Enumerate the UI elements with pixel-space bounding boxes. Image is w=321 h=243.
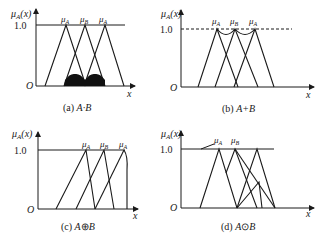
y-tick-1: 1.0	[160, 24, 173, 35]
panel-d: μA(x) 1.0 O x μA μB (d) A⊙B	[160, 128, 314, 233]
origin-label: O	[170, 202, 177, 213]
peak-label-a1: μA	[81, 139, 91, 150]
caption-c: (c) A⊕B	[61, 221, 95, 233]
peak-label-b: μB	[99, 139, 109, 150]
peak-label-a1: μA	[60, 14, 70, 25]
sum-arc-1	[217, 29, 235, 35]
bounded-edge	[124, 150, 127, 209]
fuzzy-operations-figure: μA(x) 1.0 O x μA μB μA (a) A·B μA(x) 1.0…	[0, 0, 321, 243]
panel-c: μA(x) 1.0 O x μA μB μA (c) A⊕B	[11, 128, 138, 233]
peak-label-b: μB	[79, 14, 89, 25]
peak-label-b: μB	[230, 135, 240, 146]
peak-label-a2: μA	[118, 139, 128, 150]
peak-label-a2: μA	[248, 16, 258, 27]
caption-d: (d) A⊙B	[221, 221, 255, 233]
peak-label-b: μB	[229, 16, 239, 27]
x-axis-label: x	[305, 89, 311, 100]
origin-label: O	[27, 204, 34, 215]
peak-label-a2: μA	[98, 14, 108, 25]
y-axis-label: μA(x)	[160, 8, 182, 21]
caption-a: (a) A·B	[63, 102, 91, 114]
x-axis-label: x	[305, 208, 311, 219]
sum-arc-2	[235, 29, 255, 35]
peak-label-a1: μA	[211, 16, 221, 27]
membership-a1	[56, 150, 95, 209]
membership-b-right	[235, 149, 275, 208]
panel-a: μA(x) 1.0 O x μA μB μA (a) A·B	[10, 8, 135, 114]
origin-label: O	[26, 80, 33, 91]
y-tick-1: 1.0	[160, 144, 173, 155]
x-axis-label: x	[132, 210, 138, 221]
origin-label: O	[170, 82, 177, 93]
bounded-product-region	[237, 182, 262, 208]
y-axis-label: μA(x)	[160, 128, 182, 141]
caption-b: (b) A+B	[222, 103, 255, 115]
peak-label-a: μA	[213, 135, 223, 146]
y-axis-label: μA(x)	[11, 128, 33, 141]
y-tick-1: 1.0	[14, 20, 27, 31]
x-axis-label: x	[126, 88, 132, 99]
y-tick-1: 1.0	[14, 145, 27, 156]
panel-b: μA(x) 1.0 O x μA μB μA (b) A+B	[160, 8, 314, 115]
label-leader	[201, 144, 214, 149]
